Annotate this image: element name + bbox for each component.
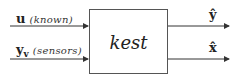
input-symbol: y <box>16 42 24 57</box>
output-label-yhat: ŷ <box>209 8 217 21</box>
output-label-xhat: x̂ <box>209 41 217 54</box>
input-label-u: u(known) <box>16 10 73 26</box>
input-subscript: v <box>24 49 29 59</box>
input-symbol: u <box>16 11 25 26</box>
block-label: kest <box>90 32 167 53</box>
input-description: (known) <box>29 14 72 25</box>
input-label-yv: yv(sensors) <box>16 41 82 57</box>
input-description: (sensors) <box>33 45 82 56</box>
kest-block: kest <box>89 9 168 74</box>
block-diagram: u(known) yv(sensors) kest ŷ x̂ <box>0 0 238 79</box>
